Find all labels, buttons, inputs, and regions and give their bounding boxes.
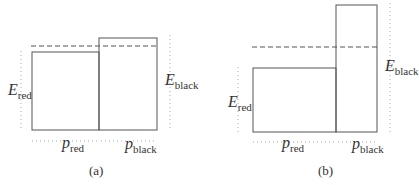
panel-a (21, 35, 170, 141)
panel-b (238, 3, 390, 142)
caption-b: (b) (318, 163, 333, 179)
caption-a: (a) (89, 163, 103, 179)
label-p-red: pred (62, 135, 84, 154)
label-e-black: Eblack (385, 58, 419, 77)
label-p-black: pblack (352, 136, 384, 155)
red-rectangle (32, 52, 99, 130)
label-e-red: Ered (8, 82, 32, 101)
label-p-black: pblack (125, 136, 157, 155)
label-p-red: pred (282, 135, 304, 154)
black-rectangle (336, 5, 377, 132)
black-rectangle (99, 38, 157, 130)
red-rectangle (253, 68, 336, 132)
label-e-black: Eblack (165, 72, 199, 91)
label-e-red: Ered (228, 94, 252, 113)
